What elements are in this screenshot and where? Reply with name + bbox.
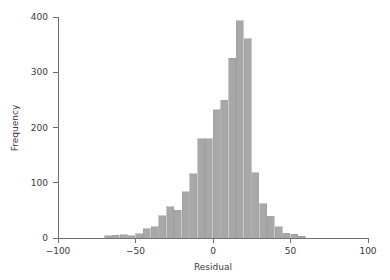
histogram-bar (190, 174, 197, 238)
x-tick-label: −100 (46, 246, 71, 256)
histogram-bar (174, 210, 181, 238)
y-tick-label: 0 (42, 233, 48, 243)
histogram-bar (167, 207, 174, 238)
x-tick-label: 50 (285, 246, 297, 256)
histogram-bar (151, 227, 158, 238)
histogram-bar (275, 227, 282, 238)
histogram-bar (213, 110, 220, 238)
x-tick-label: 100 (359, 246, 376, 256)
histogram-bar (221, 100, 228, 238)
histogram-bar (283, 233, 290, 238)
y-tick-label: 400 (31, 12, 48, 22)
residual-histogram-plot: −100−50050100 0100200300400 Residual Fre… (0, 0, 390, 280)
y-tick-label: 300 (31, 67, 48, 77)
histogram-bar (205, 139, 212, 238)
histogram-bar (229, 58, 236, 238)
x-tick-label: 0 (210, 246, 216, 256)
histogram-bar (291, 234, 298, 238)
y-tick-label: 100 (31, 178, 48, 188)
x-axis-title: Residual (194, 262, 232, 272)
histogram-bar (136, 234, 143, 238)
histogram-bar (143, 229, 150, 238)
histogram-bar (182, 192, 189, 238)
y-axis-title: Frequency (10, 104, 20, 151)
histogram-bar (252, 173, 259, 238)
histogram-bar (236, 21, 243, 238)
y-tick-label: 200 (31, 123, 48, 133)
histogram-bar (260, 204, 267, 238)
histogram-bar (198, 139, 205, 238)
x-tick-label: −50 (126, 246, 145, 256)
histogram-figure: −100−50050100 0100200300400 Residual Fre… (0, 0, 390, 280)
histogram-bar (159, 216, 166, 238)
histogram-bar (244, 39, 251, 238)
histogram-bar (267, 216, 274, 238)
